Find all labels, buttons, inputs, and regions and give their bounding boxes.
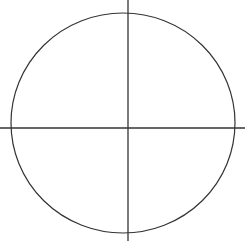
figure-canvas — [0, 0, 247, 241]
figure-svg — [0, 0, 247, 241]
background-rect — [0, 0, 247, 241]
